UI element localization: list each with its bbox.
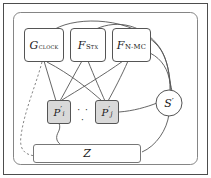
edge-party-j-to-simulator [119, 103, 157, 112]
node-clock-box[interactable] [25, 29, 64, 62]
edge-stx-to-party-j [88, 61, 105, 101]
node-stx-box[interactable] [71, 29, 106, 62]
edge-clock-to-party-j [47, 62, 102, 101]
node-simulator-circle[interactable] [156, 90, 182, 116]
edge-clock-to-environment-dashed [21, 62, 46, 156]
edge-nmc-to-party-j [108, 61, 128, 101]
edge-simulator-to-environment [142, 114, 169, 152]
diagram-canvas [0, 0, 211, 178]
node-party-j-box[interactable] [96, 101, 119, 124]
node-party-i-box[interactable] [48, 101, 71, 124]
node-nmc-box[interactable] [113, 29, 151, 62]
edge-clock-to-party-i [44, 61, 56, 101]
protocol-diagram-figure: Gclock FStx FN-MC P′i · · · P′j S′ Z [0, 0, 211, 178]
node-environment-box[interactable] [34, 145, 141, 163]
